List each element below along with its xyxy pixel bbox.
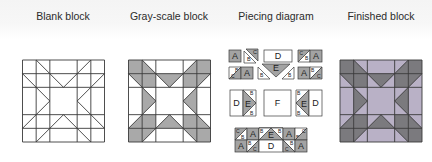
finished-block-diagram bbox=[0, 0, 432, 162]
finished-block-dark-patch bbox=[408, 60, 422, 74]
finished-block-dark-patch bbox=[408, 128, 422, 142]
finished-block-dark-patch bbox=[340, 128, 354, 142]
finished-block-dark-patch bbox=[340, 60, 354, 74]
finished-block-dark-patch bbox=[354, 74, 368, 88]
finished-block-dark-patch bbox=[354, 115, 368, 129]
finished-block-dark-patch bbox=[395, 74, 409, 88]
finished-block-dark-patch bbox=[395, 115, 409, 129]
